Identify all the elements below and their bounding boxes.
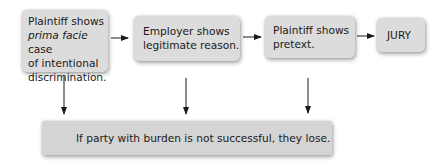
step1-italic-term: prima facie: [28, 29, 88, 41]
step1-line3: of intentional: [28, 56, 108, 70]
outcome-box: If party with burden is not successful, …: [42, 121, 332, 155]
step-plaintiff-prima-facie: Plaintiff shows prima facie case of inte…: [22, 10, 108, 72]
step3-line1: Plaintiff shows: [273, 23, 355, 37]
step1-line4: discrimination.: [28, 70, 108, 84]
step-jury: JURY: [377, 18, 425, 52]
step1-line1: Plaintiff shows: [28, 14, 108, 28]
step1-line2: prima facie case: [28, 28, 108, 56]
step4-label: JURY: [387, 28, 425, 42]
outcome-text: If party with burden is not successful, …: [76, 131, 332, 145]
step1-line2-rest: case: [28, 43, 52, 55]
step2-line2: legitimate reason.: [143, 38, 240, 52]
step-plaintiff-pretext: Plaintiff shows pretext.: [265, 16, 355, 58]
step3-line2: pretext.: [273, 37, 355, 51]
step2-line1: Employer shows: [143, 24, 240, 38]
step-employer-reason: Employer shows legitimate reason.: [134, 16, 240, 61]
